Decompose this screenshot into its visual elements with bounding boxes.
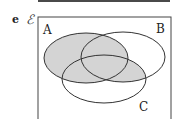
set-b-label: B bbox=[156, 22, 165, 36]
set-a-label: A bbox=[42, 23, 52, 37]
set-c-label: C bbox=[139, 100, 148, 114]
venn-diagram: A B C bbox=[0, 0, 175, 119]
